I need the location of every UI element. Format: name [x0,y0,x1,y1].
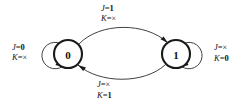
label-val-k: × [22,53,27,62]
label-val-j: × [106,80,111,89]
transition-label-1-to-0-line-j: J=× [97,79,112,90]
state-node-1-label: 1 [173,49,179,61]
transition-label-0-to-0-line-j: J=0 [12,42,27,52]
transition-label-0-to-0-line-k: K=× [12,52,27,63]
transition-label-0-to-1: J=1 K=× [101,3,116,24]
label-val-j: 1 [110,3,114,13]
transition-label-0-to-1-line-k: K=× [101,13,116,24]
diagram-canvas: 0 1 [0,0,242,102]
transition-label-1-to-1: J=× K=0 [214,42,229,63]
state-transition-diagram: 0 1 J=1 K=× J=× K=1 J=0 K=× J=× K=0 [0,0,242,102]
label-val-k: 0 [224,53,228,63]
label-val-j: × [223,43,228,52]
transition-label-0-to-0: J=0 K=× [12,42,27,63]
transition-arc-0-to-1 [79,27,168,44]
transition-label-1-to-1-line-j: J=× [214,42,229,53]
state-node-0-label: 0 [65,49,71,61]
transition-label-0-to-1-line-j: J=1 [101,3,116,13]
transition-label-1-to-0: J=× K=1 [97,79,112,100]
label-val-k: × [111,14,116,23]
transition-label-1-to-1-line-k: K=0 [214,53,229,63]
transition-label-1-to-0-line-k: K=1 [97,90,112,100]
label-val-j: 0 [21,42,25,52]
transition-arc-1-to-0 [78,65,165,79]
label-val-k: 1 [107,90,111,100]
